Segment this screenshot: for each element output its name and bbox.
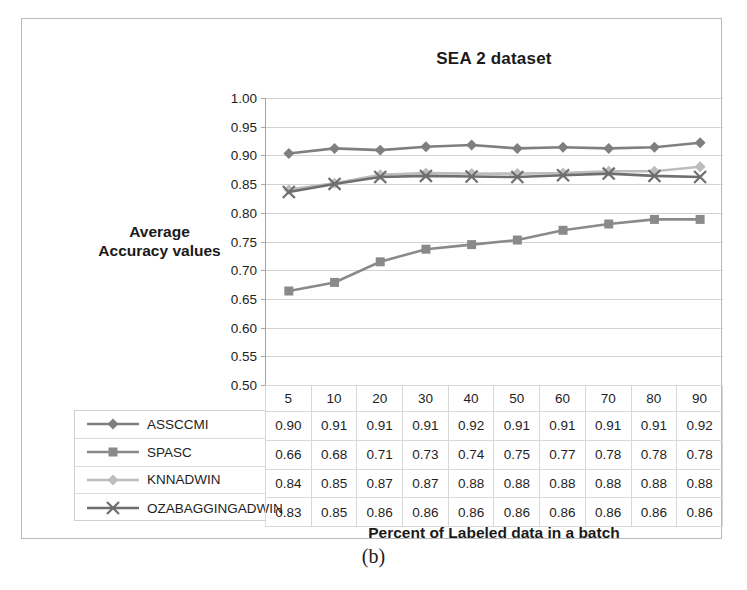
- table-cell: 0.88: [540, 469, 586, 498]
- table-column-header: 20: [357, 386, 403, 412]
- table-cell: 0.87: [403, 469, 449, 498]
- data-point-marker-square: [421, 245, 430, 254]
- y-axis-title: Average Accuracy values: [77, 222, 242, 260]
- data-point-marker-diamond: [375, 145, 386, 156]
- legend-item-ozabaggingadwin[interactable]: OZABAGGINGADWIN: [75, 494, 265, 522]
- table-cell: 0.77: [540, 440, 586, 469]
- legend-marker-cross-icon: [85, 500, 141, 516]
- table-cell: 0.86: [403, 498, 449, 527]
- y-axis-tick-label: 0.90: [231, 148, 257, 163]
- table-cell: 0.78: [585, 440, 631, 469]
- table-cell: 0.85: [311, 469, 357, 498]
- data-point-marker-diamond: [329, 143, 340, 154]
- table-cell: 0.86: [494, 498, 540, 527]
- legend-marker-diamond-icon: [85, 416, 141, 432]
- data-point-marker-square: [376, 257, 385, 266]
- data-point-marker-diamond: [108, 419, 119, 430]
- data-point-marker-diamond: [558, 142, 569, 153]
- table-cell: 0.87: [357, 469, 403, 498]
- plot-canvas: 1.000.950.900.850.800.750.700.650.600.55…: [265, 98, 723, 385]
- table-header-row: 5102030405060708090: [266, 386, 723, 412]
- data-point-marker-diamond: [512, 143, 523, 154]
- x-axis-title: Percent of Labeled data in a batch: [265, 524, 723, 542]
- table-column-header: 40: [448, 386, 494, 412]
- y-axis-tick-label: 0.60: [231, 320, 257, 335]
- data-point-marker-diamond: [283, 148, 294, 159]
- table-cell: 0.84: [266, 469, 312, 498]
- table-cell: 0.74: [448, 440, 494, 469]
- legend-item-knnadwin[interactable]: KNNADWIN: [75, 467, 265, 495]
- plot-area: 1.000.950.900.850.800.750.700.650.600.55…: [265, 98, 723, 385]
- figure-caption: (b): [0, 545, 747, 568]
- table-cell: 0.71: [357, 440, 403, 469]
- table-cell: 0.91: [494, 412, 540, 441]
- table-column-header: 90: [677, 386, 723, 412]
- series-line-ozabaggingadwin: [289, 174, 700, 192]
- legend-marker-diamond-icon: [85, 472, 141, 488]
- y-axis-tick-label: 0.55: [231, 349, 257, 364]
- table-cell: 0.91: [403, 412, 449, 441]
- table-cell: 0.86: [585, 498, 631, 527]
- figure-frame: SEA 2 dataset Average Accuracy values 1.…: [21, 18, 722, 539]
- legend-label: KNNADWIN: [147, 472, 221, 487]
- legend-item-spasc[interactable]: SPASC: [75, 439, 265, 467]
- data-point-marker-square: [604, 220, 613, 229]
- table-cell: 0.92: [448, 412, 494, 441]
- y-axis-tick-label: 0.95: [231, 119, 257, 134]
- table-row: 0.900.910.910.910.920.910.910.910.910.92: [266, 412, 723, 441]
- table-cell: 0.91: [585, 412, 631, 441]
- table-cell: 0.85: [311, 498, 357, 527]
- series-line-spasc: [289, 219, 700, 291]
- table-cell: 0.66: [266, 440, 312, 469]
- data-point-marker-diamond: [695, 161, 706, 172]
- data-point-marker-square: [696, 215, 705, 224]
- chart-title: SEA 2 dataset: [265, 49, 723, 69]
- data-point-marker-square: [650, 215, 659, 224]
- table-row: 0.830.850.860.860.860.860.860.860.860.86: [266, 498, 723, 527]
- y-axis-tick-label: 0.85: [231, 177, 257, 192]
- table-cell: 0.68: [311, 440, 357, 469]
- table-row: 0.660.680.710.730.740.750.770.780.780.78: [266, 440, 723, 469]
- legend-label: SPASC: [147, 445, 192, 460]
- legend-item-assccmi[interactable]: ASSCCMI: [75, 411, 265, 439]
- table-column-header: 5: [266, 386, 312, 412]
- y-axis-title-line2: Accuracy values: [77, 241, 242, 260]
- table-cell: 0.91: [540, 412, 586, 441]
- table-cell: 0.90: [266, 412, 312, 441]
- table-column-header: 80: [631, 386, 677, 412]
- y-axis-tick-label: 0.50: [231, 378, 257, 393]
- table-cell: 0.92: [677, 412, 723, 441]
- table-column-header: 70: [585, 386, 631, 412]
- legend-label: ASSCCMI: [147, 417, 209, 432]
- table-cell: 0.91: [311, 412, 357, 441]
- table-cell: 0.88: [448, 469, 494, 498]
- data-point-marker-diamond: [695, 137, 706, 148]
- legend-marker-square-icon: [85, 444, 141, 460]
- y-axis-title-line1: Average: [77, 222, 242, 241]
- y-axis-tick-label: 0.65: [231, 291, 257, 306]
- table-cell: 0.86: [677, 498, 723, 527]
- data-point-marker-square: [109, 448, 118, 457]
- y-axis-tick-label: 0.70: [231, 263, 257, 278]
- y-axis-tick-label: 0.75: [231, 234, 257, 249]
- table-column-header: 10: [311, 386, 357, 412]
- chart-legend: ASSCCMISPASCKNNADWINOZABAGGINGADWIN: [74, 410, 265, 521]
- data-point-marker-diamond: [420, 141, 431, 152]
- table-row: 0.840.850.870.870.880.880.880.880.880.88: [266, 469, 723, 498]
- table-cell: 0.88: [677, 469, 723, 498]
- legend-label: OZABAGGINGADWIN: [147, 501, 283, 516]
- data-point-marker-square: [284, 287, 293, 296]
- series-line-assccmi: [289, 143, 700, 154]
- table-column-header: 30: [403, 386, 449, 412]
- table-cell: 0.86: [540, 498, 586, 527]
- table-cell: 0.91: [631, 412, 677, 441]
- table-cell: 0.83: [266, 498, 312, 527]
- data-point-marker-diamond: [466, 139, 477, 150]
- table-cell: 0.88: [631, 469, 677, 498]
- data-point-marker-diamond: [108, 474, 119, 485]
- table-column-header: 50: [494, 386, 540, 412]
- series-lines: [266, 98, 723, 384]
- y-axis-tick-label: 1.00: [231, 91, 257, 106]
- table-cell: 0.86: [357, 498, 403, 527]
- data-point-marker-diamond: [603, 143, 614, 154]
